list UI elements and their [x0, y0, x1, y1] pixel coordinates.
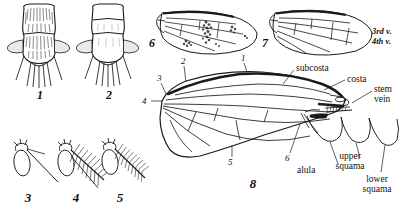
callout-number-3: 3 — [157, 73, 162, 83]
figure-1-thorax-hairy — [7, 4, 69, 88]
figure-number-7: 7 — [258, 36, 272, 51]
figure-7-wing-clear — [270, 10, 373, 55]
callout-number-4: 4 — [142, 96, 147, 106]
figure-number-3: 3 — [18, 190, 38, 206]
costa-label: costa — [347, 75, 367, 85]
third-vein-label: 3rd v. — [372, 27, 392, 36]
callout-number-2: 2 — [181, 56, 186, 66]
figure-number-8: 8 — [243, 176, 263, 192]
figure-6-wing-spotted — [157, 11, 257, 54]
figure-number-4: 4 — [66, 190, 86, 206]
fourth-vein-label: 4th v. — [372, 37, 391, 46]
figure-5-antenna-pubescent — [100, 138, 149, 182]
figure-number-6: 6 — [145, 36, 159, 51]
alula-label: alula — [297, 166, 315, 176]
callout-number-6: 6 — [285, 153, 290, 163]
figure-number-5: 5 — [110, 190, 130, 206]
figure-2-thorax-bare — [76, 4, 138, 87]
figure-number-2: 2 — [99, 88, 119, 103]
lower-squama-label-line2: squama — [354, 185, 400, 195]
stem-vein-label-line2: vein — [374, 95, 390, 105]
entomological-plate: 1 2 3 4 5 6 7 8 3rd v. 4th v. 1 2 3 4 5 … — [0, 0, 403, 214]
figure-number-1: 1 — [30, 88, 50, 103]
figure-3-antenna-bare — [12, 139, 58, 182]
subcosta-label: subcosta — [296, 64, 329, 74]
upper-squama-label-line2: squama — [327, 162, 373, 172]
callout-number-1: 1 — [241, 53, 246, 63]
plate-line-art — [0, 0, 403, 214]
callout-number-5: 5 — [228, 157, 233, 167]
